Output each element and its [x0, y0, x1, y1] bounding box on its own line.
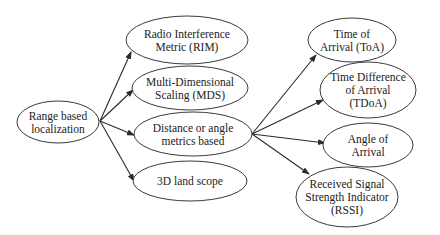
- range-localization-diagram: Range basedlocalizationRadio Interferenc…: [0, 0, 440, 235]
- nodes-group: Range basedlocalizationRadio Interferenc…: [17, 16, 416, 227]
- node-label-toa: Arrival (ToA): [320, 41, 384, 54]
- node-label-rim: Metric (RIM): [156, 41, 219, 54]
- node-label-dist: metrics based: [162, 135, 225, 147]
- node-label-rssi: (RSSI): [331, 204, 363, 217]
- node-label-rssi: Received Signal: [309, 178, 384, 191]
- node-toa: Time ofArrival (ToA): [308, 18, 396, 62]
- node-label-mds: Scaling (MDS): [155, 89, 225, 102]
- arrow-dist-to-toa: [252, 55, 316, 134]
- node-tdoa: Time Differenceof Arrival(TDoA): [320, 62, 416, 118]
- node-label-root: Range based: [29, 110, 88, 123]
- node-label-aoa: Arrival: [351, 146, 384, 158]
- node-label-tdoa: of Arrival: [345, 84, 390, 96]
- node-label-rssi: Strength Indicator: [305, 191, 389, 204]
- arrow-root-to-mds: [100, 90, 133, 121]
- arrow-root-to-land: [100, 121, 134, 181]
- node-root: Range basedlocalization: [17, 101, 99, 143]
- node-land: 3D land scope: [133, 161, 247, 201]
- node-label-dist: Distance or angle: [153, 122, 233, 135]
- node-aoa: Angle ofArrival: [323, 123, 413, 167]
- node-label-mds: Multi-Dimensional: [146, 76, 234, 88]
- arrow-root-to-rim: [100, 52, 131, 121]
- arrow-root-to-dist: [100, 121, 134, 135]
- arrow-dist-to-tdoa: [252, 100, 323, 134]
- node-dist: Distance or anglemetrics based: [134, 112, 252, 156]
- node-rssi: Received SignalStrength Indicator(RSSI): [296, 167, 398, 227]
- node-label-root: localization: [31, 123, 85, 135]
- node-rim: Radio InterferenceMetric (RIM): [126, 16, 248, 64]
- node-label-rim: Radio Interference: [144, 28, 230, 40]
- node-label-tdoa: (TDoA): [349, 97, 386, 110]
- node-label-land: 3D land scope: [157, 175, 223, 188]
- node-mds: Multi-DimensionalScaling (MDS): [132, 66, 248, 110]
- node-label-aoa: Angle of: [348, 133, 389, 146]
- node-label-tdoa: Time Difference: [330, 71, 406, 83]
- node-label-toa: Time of: [334, 28, 370, 40]
